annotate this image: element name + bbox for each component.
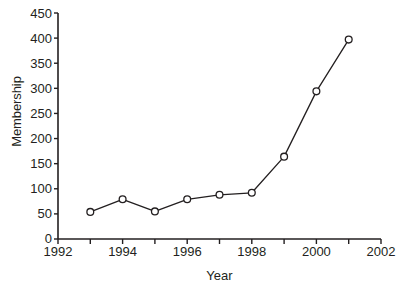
data-point (345, 36, 352, 43)
membership-series-markers (87, 36, 352, 215)
membership-line-chart: Membership 450 400 350 300 250 200 150 1… (0, 0, 403, 289)
data-point (152, 208, 159, 215)
data-point (184, 196, 191, 203)
data-point (216, 191, 223, 198)
data-point (313, 88, 320, 95)
data-point (248, 189, 255, 196)
data-point (87, 208, 94, 215)
plot-area (0, 0, 403, 289)
membership-series-line (90, 40, 348, 212)
data-point (119, 196, 126, 203)
data-point (281, 153, 288, 160)
